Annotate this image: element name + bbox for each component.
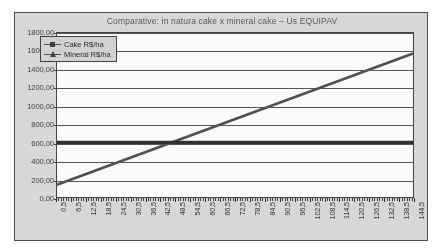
x-axis-minor-tick <box>257 198 258 201</box>
x-axis-minor-tick <box>173 198 174 201</box>
chart-legend: Cake R$/ha Mineral R$/ha <box>40 36 117 62</box>
x-axis-minor-tick <box>158 198 159 201</box>
x-axis-minor-tick <box>58 198 59 201</box>
x-axis-tick-label: 12,5 <box>89 202 98 216</box>
x-axis-tick-label: 66,5 <box>223 202 232 216</box>
x-axis-minor-tick <box>290 198 291 201</box>
x-axis-tick-label: 114,5 <box>342 202 351 219</box>
y-axis-tick-label: 0,00 <box>40 194 54 203</box>
x-axis-major-tick <box>414 198 415 202</box>
y-axis-tick-label: 1200,00 <box>27 83 54 92</box>
x-axis-minor-tick <box>163 198 164 201</box>
chart-title: Comparative: in natura cake x mineral ca… <box>15 16 429 26</box>
x-axis-tick-label: 108,5 <box>328 202 337 220</box>
x-axis-minor-tick <box>200 198 201 201</box>
x-axis-minor-tick <box>245 198 246 201</box>
x-axis-minor-tick <box>123 198 124 201</box>
x-axis-minor-tick <box>237 198 238 201</box>
y-axis-tick <box>54 107 57 108</box>
x-axis-minor-tick <box>208 198 209 201</box>
x-axis-minor-tick <box>136 198 137 201</box>
x-axis-minor-tick <box>73 198 74 201</box>
legend-item-mineral: Mineral R$/ha <box>44 49 111 59</box>
gridline <box>57 70 413 71</box>
x-axis-minor-tick <box>183 198 184 201</box>
x-axis-minor-tick <box>233 198 234 201</box>
x-axis-tick-label: 42,5 <box>163 202 172 216</box>
x-axis-tick-label: 90,5 <box>283 202 292 216</box>
x-axis-tick-label: 102,5 <box>313 202 322 220</box>
x-axis-minor-tick <box>113 198 114 201</box>
gridline <box>57 88 413 89</box>
x-axis-tick-label: 54,5 <box>193 202 202 216</box>
x-axis-tick-label: 78,5 <box>253 202 262 216</box>
x-axis-minor-tick <box>322 198 323 201</box>
x-axis-tick-label: 18,5 <box>104 202 113 216</box>
x-axis-minor-tick <box>198 198 199 201</box>
x-axis-minor-tick <box>108 198 109 201</box>
legend-item-cake: Cake R$/ha <box>44 39 111 49</box>
x-axis-tick-label: 96,5 <box>298 202 307 216</box>
x-axis-minor-tick <box>285 198 286 201</box>
x-axis-minor-tick <box>76 198 77 201</box>
x-axis-minor-tick <box>168 198 169 201</box>
x-axis-tick-label: 126,5 <box>372 202 381 220</box>
x-axis-minor-tick <box>292 198 293 201</box>
x-axis-minor-tick <box>98 198 99 201</box>
x-axis-minor-tick <box>349 198 350 201</box>
x-axis-minor-tick <box>397 198 398 201</box>
x-axis-tick-labels: 0,56,512,518,524,530,536,542,548,554,560… <box>56 202 414 242</box>
x-axis-minor-tick <box>170 198 171 201</box>
x-axis-minor-tick <box>203 198 204 201</box>
x-axis-minor-tick <box>215 198 216 201</box>
x-axis-minor-tick <box>106 198 107 201</box>
x-axis-tick-label: 30,5 <box>134 202 143 216</box>
x-axis-tick-label: 48,5 <box>178 202 187 216</box>
x-axis-minor-tick <box>78 198 79 201</box>
y-axis-tick <box>54 70 57 71</box>
x-axis-minor-tick <box>267 198 268 201</box>
x-axis-tick-label: 0,5 <box>59 202 68 212</box>
legend-label-cake: Cake R$/ha <box>64 40 104 49</box>
gridline <box>57 181 413 182</box>
x-axis-tick-label: 6,5 <box>74 202 83 212</box>
x-axis-minor-tick <box>302 198 303 201</box>
x-axis-minor-tick <box>270 198 271 201</box>
x-axis-tick-label: 138,5 <box>402 202 411 220</box>
x-axis-minor-tick <box>63 198 64 201</box>
gridline <box>57 125 413 126</box>
x-axis-minor-tick <box>228 198 229 201</box>
y-axis-tick <box>54 162 57 163</box>
x-axis-tick-label: 144,5 <box>417 202 426 220</box>
y-axis-tick <box>54 144 57 145</box>
x-axis-minor-tick <box>287 198 288 201</box>
x-axis-minor-tick <box>223 198 224 201</box>
y-axis-tick-label: 400,00 <box>31 157 54 166</box>
x-axis-minor-tick <box>126 198 127 201</box>
x-axis-minor-tick <box>252 198 253 201</box>
y-axis-tick <box>54 33 57 34</box>
x-axis-minor-tick <box>133 198 134 201</box>
x-axis-minor-tick <box>262 198 263 201</box>
x-axis-minor-tick <box>83 198 84 201</box>
triangle-marker-icon <box>44 50 61 59</box>
x-axis-minor-tick <box>272 198 273 201</box>
x-axis-minor-tick <box>337 198 338 201</box>
x-axis-minor-tick <box>103 198 104 201</box>
x-axis-minor-tick <box>188 198 189 201</box>
square-marker-icon <box>44 40 61 49</box>
x-axis-minor-tick <box>218 198 219 201</box>
x-axis-minor-tick <box>260 198 261 201</box>
x-axis-minor-tick <box>195 198 196 201</box>
x-axis-minor-tick <box>178 198 179 201</box>
y-axis-tick-label: 1400,00 <box>27 64 54 73</box>
y-axis-tick-label: 600,00 <box>31 138 54 147</box>
x-axis-minor-tick <box>240 198 241 201</box>
y-axis-tick <box>54 88 57 89</box>
y-axis-tick-label: 200,00 <box>31 175 54 184</box>
x-axis-minor-tick <box>382 198 383 201</box>
screenshot-root: Comparative: in natura cake x mineral ca… <box>0 0 443 251</box>
x-axis-minor-tick <box>275 198 276 201</box>
x-axis-minor-tick <box>155 198 156 201</box>
x-axis-minor-tick <box>121 198 122 201</box>
